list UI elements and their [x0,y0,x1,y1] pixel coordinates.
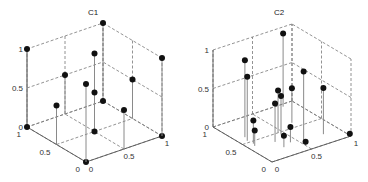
chart-title: C1 [88,8,99,17]
x-tick-label: 0 [275,165,280,174]
x-tick-label: 1 [354,139,359,148]
y-tick-label: 0.5 [225,148,237,157]
data-marker [159,55,165,61]
z-tick-label: 0.5 [198,85,210,94]
data-marker [62,72,68,78]
grid-line [27,23,103,49]
data-marker [281,133,287,139]
x-tick-label: 0 [89,165,94,174]
z-tick-label: 0.5 [12,84,24,93]
data-marker [278,93,284,99]
data-marker [320,85,326,91]
z-tick-label: 1 [19,45,24,54]
z-tick-label: 0 [205,123,210,132]
z-tick-label: 1 [205,46,210,55]
data-marker [100,98,106,104]
data-marker [121,107,127,113]
y-tick-label: 0 [76,165,81,174]
data-marker [100,20,106,26]
data-marker [287,124,293,130]
y-tick-label: 0 [262,165,267,174]
data-marker [24,124,30,130]
data-marker [24,46,30,52]
subplot-c1: 00.5100.5100.51C1 [12,8,170,174]
data-marker [280,31,286,37]
data-marker [54,103,60,109]
data-marker [244,74,250,80]
x-tick-label: 0.5 [123,152,135,161]
data-marker [347,131,353,137]
data-marker [83,81,89,87]
data-marker [130,77,136,83]
y-tick-label: 0.5 [39,148,51,157]
data-marker [92,129,98,135]
figure: 00.5100.5100.51C1 00.5100.5100.51C2 [0,0,368,182]
subplot-c2: 00.5100.5100.51C2 [198,8,359,174]
y-axis-line [213,127,272,162]
x-tick-label: 1 [165,139,170,148]
z-tick-label: 0 [19,123,24,132]
data-marker [252,128,258,134]
data-marker [92,51,98,57]
chart-title: C2 [274,8,285,17]
data-marker [303,139,309,145]
data-marker [301,68,307,74]
data-marker [275,87,281,93]
data-marker [92,90,98,96]
x-tick-label: 0.5 [311,152,323,161]
data-marker [242,57,248,63]
data-marker [250,118,256,124]
data-marker [272,100,278,106]
data-marker [289,85,295,91]
